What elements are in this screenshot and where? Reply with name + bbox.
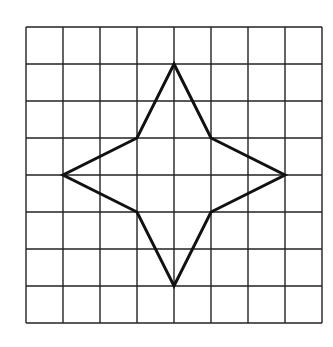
grid-diagram (0, 0, 333, 347)
square-grid (26, 27, 322, 323)
